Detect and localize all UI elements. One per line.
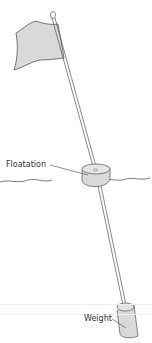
pole-top-loop [51, 12, 56, 19]
water-line [0, 178, 150, 182]
weight-label: Weight [84, 315, 112, 323]
divider [0, 304, 152, 305]
flag-icon [14, 21, 64, 70]
diagram-svg [0, 0, 152, 343]
floatation-label: Floatation [6, 161, 46, 169]
marker-flag-diagram: Floatation Weight [0, 0, 152, 343]
divider [0, 314, 152, 315]
